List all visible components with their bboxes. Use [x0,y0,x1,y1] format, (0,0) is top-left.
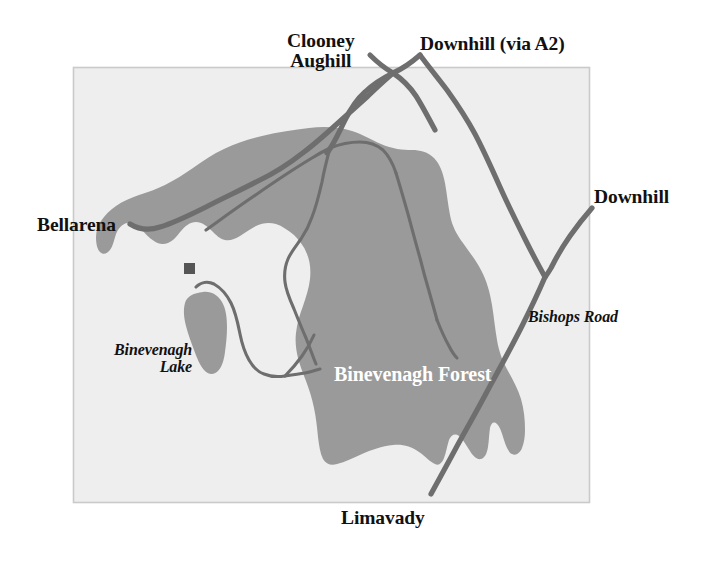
label-bishops-road: Bishops Road [528,309,618,326]
label-downhill-via-a2: Downhill (via A2) [420,34,565,54]
label-downhill: Downhill [594,187,669,207]
label-bellarena: Bellarena [37,215,116,235]
site-marker [184,263,195,274]
label-limavady: Limavady [341,508,425,528]
label-binevenagh-forest: Binevenagh Forest [334,364,491,385]
map-canvas [0,0,705,565]
label-binevenagh-lake: Binevenagh Lake [114,342,192,376]
map-page: Clooney Aughill Downhill (via A2) Downhi… [0,0,705,565]
label-clooney-aughill: Clooney Aughill [287,31,355,72]
